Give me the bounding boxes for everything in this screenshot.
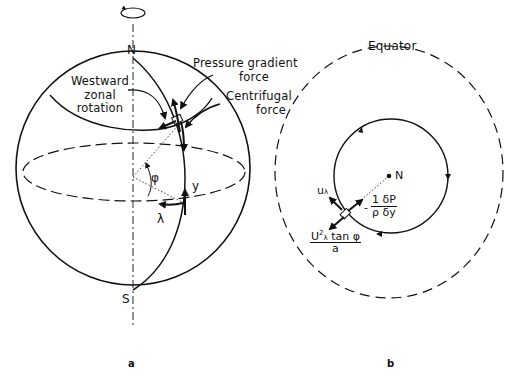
centrifugal-line2: force xyxy=(226,105,286,117)
centrifugal-line1: Centrifugal xyxy=(226,91,286,103)
callout-centrifugal xyxy=(186,104,220,127)
radius-to-parcel xyxy=(133,123,180,177)
westward-zonal-rotation-label: Westward zonal rotation xyxy=(70,76,130,115)
centrifugal-sub: λ xyxy=(324,234,328,242)
u-lambda-base: u xyxy=(317,184,324,197)
pressure-line2: force xyxy=(193,72,285,84)
equator-ellipse xyxy=(23,143,245,201)
panel-b-caption: b xyxy=(387,359,394,369)
u-lambda-sub: λ xyxy=(324,188,328,196)
equator-label: Equator xyxy=(368,40,417,52)
westward-line1: Westward xyxy=(70,76,130,88)
callout-westward xyxy=(128,90,165,118)
westward-line3: rotation xyxy=(70,103,130,115)
latitude-phi-label: φ xyxy=(151,172,159,184)
lambda-label: λ xyxy=(157,213,164,225)
rotation-icon xyxy=(121,8,145,18)
north-pole-label: N xyxy=(127,44,136,56)
y-axis-label: y xyxy=(192,180,199,192)
equator-circle xyxy=(275,46,503,298)
pressure-gradient-label: Pressure gradient force xyxy=(193,58,285,83)
centrifugal-term-denominator: a xyxy=(332,243,339,255)
pressure-term-denominator: ρ δy xyxy=(372,207,396,219)
centrifugal-U: U xyxy=(311,230,319,243)
centrifugal-tan: tan φ xyxy=(331,230,360,243)
north-pole-label-b: N xyxy=(395,170,403,181)
pressure-term-numerator: 1 δP xyxy=(371,194,397,207)
meridian-arc xyxy=(133,58,185,290)
u-lambda-label: uλ xyxy=(317,185,328,196)
pressure-gradient-term: 1 δP ρ δy xyxy=(371,194,397,218)
westward-line2: zonal xyxy=(70,90,130,102)
pressure-line1: Pressure gradient xyxy=(193,58,285,70)
pressure-term-minus: - xyxy=(364,202,368,213)
centrifugal-term: U2λ tan φ a xyxy=(310,230,361,255)
south-pole-label: S xyxy=(122,293,130,305)
panel-a-caption: a xyxy=(128,359,135,369)
panel-b-polar-view xyxy=(275,46,503,298)
centrifugal-force-label: Centrifugal force xyxy=(226,91,286,116)
